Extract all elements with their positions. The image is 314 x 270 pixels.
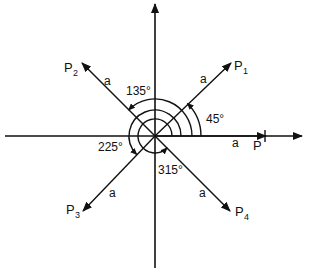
point-label-p4: P 4 — [235, 204, 249, 222]
vector-p2 — [82, 63, 155, 136]
point-label-p2: P 2 — [64, 60, 78, 78]
rotation-diagram: 45° 135° 225° 315° a a a a a P P 1 P 2 P… — [0, 0, 314, 270]
length-label-p4: a — [199, 186, 206, 200]
length-label-p: a — [232, 136, 239, 150]
angle-label-315: 315° — [158, 163, 183, 177]
svg-text:1: 1 — [243, 66, 248, 76]
length-label-p2: a — [104, 74, 111, 88]
angle-label-225: 225° — [98, 140, 123, 154]
svg-text:P: P — [235, 204, 244, 219]
svg-text:P: P — [64, 60, 73, 75]
angle-label-135: 135° — [126, 84, 151, 98]
svg-text:3: 3 — [75, 210, 80, 220]
angle-label-45: 45° — [206, 112, 224, 126]
point-label-p: P — [253, 138, 262, 153]
point-label-p1: P 1 — [234, 58, 248, 76]
svg-text:4: 4 — [244, 212, 249, 222]
length-label-p1: a — [200, 72, 207, 86]
point-label-p3: P 3 — [66, 202, 80, 220]
length-label-p3: a — [109, 186, 116, 200]
svg-text:2: 2 — [73, 68, 78, 78]
svg-text:P: P — [66, 202, 75, 217]
svg-text:P: P — [234, 58, 243, 73]
svg-text:P: P — [253, 138, 262, 153]
arc-45 — [188, 104, 202, 137]
